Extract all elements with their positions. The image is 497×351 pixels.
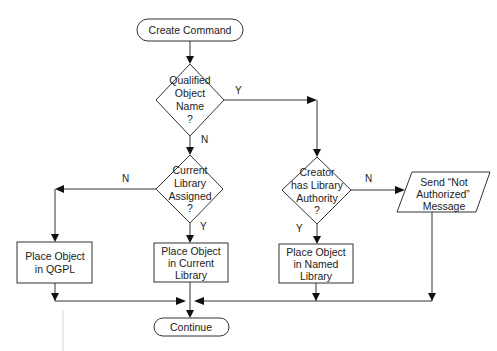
node-not-auth-line-3: Message <box>423 200 466 212</box>
node-place-object-in-named-library: Place Object in Named Library <box>279 244 353 283</box>
edge-start-to-qualified <box>186 41 194 64</box>
edge-label-qualified-no: N <box>201 134 208 145</box>
arrow-down-icon <box>186 56 194 64</box>
arrow-down-icon <box>313 149 321 157</box>
arrow-left-icon <box>194 297 204 305</box>
node-qgpl-line-1: Place Object <box>25 250 85 262</box>
node-qualified-line-2: Object <box>175 87 205 99</box>
edge-qualified-yes: Y <box>224 85 321 157</box>
node-send-not-authorized-message: Send “Not Authorized” Message <box>397 172 490 212</box>
node-place-object-in-current-library: Place Object in Current Library <box>154 243 228 282</box>
edge-label-creator-yes: Y <box>296 223 303 234</box>
arrow-down-icon <box>312 293 320 301</box>
node-create-command-label: Create Command <box>149 24 232 36</box>
node-named-line-1: Place Object <box>286 246 346 258</box>
node-not-auth-line-1: Send “Not <box>420 176 467 188</box>
node-current-line-3: Assigned <box>168 190 211 202</box>
node-qualified-object-name: Qualified Object Name ? <box>156 64 224 136</box>
node-current-line-2: Library <box>174 177 207 189</box>
node-named-line-2: in Named <box>294 258 339 270</box>
edge-label-qualified-yes: Y <box>235 85 242 96</box>
node-creator-line-2: has Library <box>291 179 344 191</box>
arrow-right-icon <box>307 96 317 104</box>
node-current-box-line-2: in Current <box>168 257 214 269</box>
node-current-box-line-1: Place Object <box>161 245 221 257</box>
edge-qgpl-to-continue <box>51 283 186 305</box>
arrow-down-icon <box>186 147 194 155</box>
node-named-line-3: Library <box>300 270 333 282</box>
flowchart-canvas: Create Command Qualified Object Name ? Y… <box>0 0 497 351</box>
edge-current-to-continue <box>186 282 194 318</box>
node-create-command: Create Command <box>137 19 243 41</box>
arrow-down-icon <box>51 234 59 242</box>
arrow-left-icon <box>55 185 64 193</box>
edge-label-current-no: N <box>122 173 129 184</box>
node-creator-has-library-authority: Creator has Library Authority ? <box>282 157 351 224</box>
edge-creator-no: N <box>351 173 405 194</box>
arrow-down-icon <box>428 293 436 301</box>
arrow-down-icon <box>186 310 194 318</box>
edge-current-no: N <box>51 173 156 242</box>
arrow-down-icon <box>186 235 194 243</box>
node-creator-line-3: Authority <box>296 192 338 204</box>
node-qualified-line-1: Qualified <box>169 74 211 86</box>
edge-label-creator-no: N <box>365 173 372 184</box>
node-qgpl-line-2: in QGPL <box>35 263 75 275</box>
node-qualified-line-3: Name <box>176 100 204 112</box>
node-creator-line-1: Creator <box>299 166 335 178</box>
edge-label-current-yes: Y <box>200 221 207 232</box>
edge-creator-yes: Y <box>296 223 321 244</box>
node-continue: Continue <box>154 318 229 336</box>
arrow-right-icon <box>395 186 405 194</box>
node-place-object-in-qgpl: Place Object in QGPL <box>17 242 92 283</box>
node-current-library-assigned: Current Library Assigned ? <box>156 155 223 223</box>
node-current-box-line-3: Library <box>175 269 208 281</box>
arrow-down-icon <box>313 236 321 244</box>
node-current-line-4: ? <box>187 202 193 214</box>
node-not-auth-line-2: Authorized” <box>416 188 470 200</box>
node-continue-label: Continue <box>170 321 212 333</box>
node-qualified-line-4: ? <box>187 113 193 125</box>
edge-current-yes: Y <box>186 221 207 243</box>
arrow-down-icon <box>51 293 59 301</box>
edge-qualified-no: N <box>186 134 208 155</box>
node-current-line-1: Current <box>172 164 207 176</box>
node-creator-line-4: ? <box>314 204 320 216</box>
arrow-right-icon <box>176 297 186 305</box>
